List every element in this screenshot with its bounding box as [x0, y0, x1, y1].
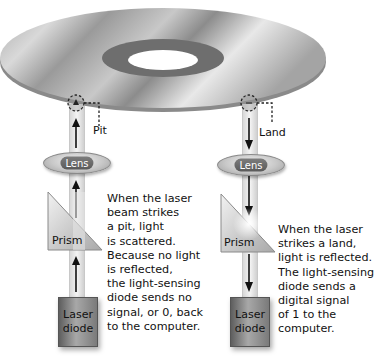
left-lens-label: Lens: [60, 157, 93, 170]
right-diode-label-line1: Laser: [235, 308, 265, 322]
right-lens: Lens: [217, 154, 285, 176]
right-land-marker: [233, 88, 278, 128]
pit-description: When the laser beam strikes a pit, light…: [107, 192, 203, 334]
right-arrow-down-icon: [243, 254, 255, 292]
cd-disc-illustration: [0, 0, 373, 120]
disc-hole: [128, 50, 198, 70]
left-diode-label-line1: Laser: [63, 308, 93, 322]
left-lens: Lens: [43, 152, 111, 174]
left-prism-label: Prism: [52, 234, 82, 247]
left-pit-marker: [60, 88, 105, 128]
left-laser-diode: Laser diode: [58, 297, 98, 347]
right-diode-label-line2: diode: [235, 322, 266, 336]
right-laser-diode: Laser diode: [230, 297, 270, 347]
pit-label: Pit: [93, 124, 107, 137]
right-arrow-down-icon: [243, 118, 255, 150]
land-label: Land: [259, 126, 286, 139]
land-description: When the laser strikes a land, light is …: [278, 223, 374, 337]
right-prism-label: Prism: [224, 236, 254, 249]
right-lens-label: Lens: [234, 159, 267, 172]
left-diode-label-line2: diode: [63, 322, 94, 336]
left-arrow-up-icon: [70, 118, 82, 148]
left-arrow-up-icon: [70, 256, 82, 292]
